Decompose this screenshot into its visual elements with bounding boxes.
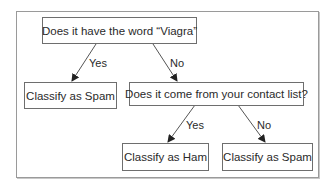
node-classify-spam-right: Classify as Spam — [222, 143, 313, 171]
node-root-question: Does it have the word “Viagra” — [42, 17, 197, 44]
edge-label-root-no: No — [170, 57, 184, 69]
node-classify-ham: Classify as Ham — [122, 143, 209, 171]
edge-label-contact-yes: Yes — [186, 119, 204, 131]
node-contact-question: Does it come from your contact list? — [129, 82, 304, 106]
edge-label-root-yes: Yes — [89, 57, 107, 69]
edge-label-contact-no: No — [257, 119, 271, 131]
node-classify-spam-left: Classify as Spam — [24, 82, 117, 109]
